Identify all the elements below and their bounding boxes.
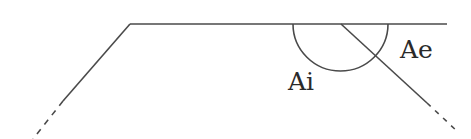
interior-angle-arc <box>293 24 388 71</box>
extension-line-dashed <box>427 103 458 132</box>
interior-angle-label: Ai <box>287 67 314 96</box>
left-edge <box>63 24 130 101</box>
left-edge-dashed <box>33 101 63 139</box>
polygon-angle-diagram: Ai Ae <box>0 0 471 139</box>
exterior-angle-label: Ae <box>399 35 433 64</box>
